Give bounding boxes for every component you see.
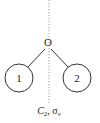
bond-o-2 [51,49,68,67]
node-1-label: 1 [16,72,22,84]
molecule-diagram: O 1 2 C2, σv [0,0,100,123]
bond-o-1 [28,49,45,67]
center-atom-label: O [44,36,52,48]
symmetry-label: C2, σv [37,105,62,118]
node-2-label: 2 [74,72,80,84]
sigma-subscript: v [58,110,62,118]
